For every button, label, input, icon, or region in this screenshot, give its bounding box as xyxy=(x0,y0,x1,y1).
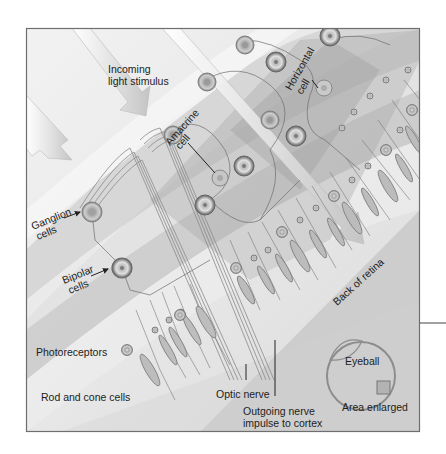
outgoing-impulse-label-1: Outgoing nerve xyxy=(243,405,315,417)
horizontal-cell xyxy=(316,80,332,96)
incoming-light-label-2: light stimulus xyxy=(108,75,169,87)
area-enlarged-marker xyxy=(377,381,390,394)
rod-cone-label: Rod and cone cells xyxy=(41,391,130,403)
diagram-body: Incoming light stimulus Ganglion cells B… xyxy=(26,26,425,432)
bipolar-cell xyxy=(112,258,132,278)
diagram-canvas: Incoming light stimulus Ganglion cells B… xyxy=(0,0,446,454)
ganglion-cell xyxy=(82,202,102,222)
outgoing-impulse-label-2: impulse to cortex xyxy=(243,417,323,429)
incoming-light-label-1: Incoming xyxy=(108,63,151,75)
optic-nerve-label: Optic nerve xyxy=(216,388,270,400)
photoreceptors-label: Photoreceptors xyxy=(36,346,107,358)
eyeball-label: Eyeball xyxy=(345,355,379,367)
area-enlarged-label: Area enlarged xyxy=(342,401,408,413)
retina-diagram: Incoming light stimulus Ganglion cells B… xyxy=(0,0,446,454)
